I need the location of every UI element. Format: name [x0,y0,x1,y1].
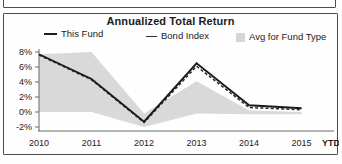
avg-for-fund-type-area-group [39,52,302,127]
legend-label-this-fund: This Fund [61,29,103,39]
y-axis-tick-label: 4% [19,77,32,87]
x-axis-tick-labels: 201020112012201320142015YTD [29,138,339,148]
x-axis-tick-label: 2013 [187,138,207,148]
x-axis-tick-label: 2014 [239,138,259,148]
plot-area: 8%6%4%2%0%-2% 201020112012201320142015YT… [4,43,339,155]
adjacent-panel-edge [3,0,336,8]
legend-item-avg-for-fund-type: Avg for Fund Type [236,32,326,42]
solid-line-swatch-icon [44,33,57,35]
avg-for-fund-type-area [39,52,302,127]
y-axis-tick-label: 0% [19,107,32,117]
legend-label-bond-index: Bond Index [161,31,209,41]
annualized-total-return-panel: Annualized Total Return This Fund Bond I… [3,13,338,155]
x-axis-ytd-label: YTD [322,138,339,148]
y-axis-tick-label: 2% [19,92,32,102]
y-axis-tick-label: -2% [16,122,32,132]
x-axis-tick-label: 2010 [29,138,49,148]
chart-screenshot: Annualized Total Return This Fund Bond I… [0,0,342,164]
legend-item-this-fund: This Fund [44,29,103,39]
y-axis-tick-label: 8% [19,47,32,57]
y-axis-tick-label: 6% [19,62,32,72]
x-axis-tick-label: 2015 [292,138,312,148]
x-axis-tick-label: 2011 [82,138,101,148]
line-chart-svg: 8%6%4%2%0%-2% 201020112012201320142015YT… [4,43,339,155]
legend-label-avg-for-fund-type: Avg for Fund Type [249,32,326,42]
thin-line-swatch-icon [146,36,157,37]
y-axis-ticks [35,52,39,127]
x-axis-tick-label: 2012 [134,138,154,148]
gray-square-swatch-icon [236,33,245,42]
legend-item-bond-index: Bond Index [146,31,209,41]
chart-legend: This Fund Bond Index Avg for Fund Type [4,29,337,43]
y-axis-tick-labels: 8%6%4%2%0%-2% [16,47,32,132]
page-title: Annualized Total Return [4,15,337,27]
